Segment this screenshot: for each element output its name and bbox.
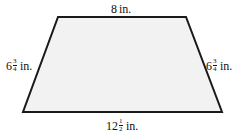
bottom-side-denominator: 2 (119, 126, 123, 133)
left-side-label: 6 3 4 in. (6, 58, 32, 73)
left-side-unit: in. (20, 60, 32, 72)
bottom-side-label: 12 1 2 in. (106, 118, 138, 133)
left-side-fraction: 3 4 (13, 58, 18, 73)
right-side-denominator: 4 (213, 66, 217, 73)
left-side-denominator: 4 (13, 66, 17, 73)
bottom-side-whole: 12 (106, 120, 118, 132)
left-side-whole: 6 (6, 60, 12, 72)
trapezoid-shape (23, 17, 222, 112)
right-side-label: 6 3 4 in. (206, 58, 232, 73)
bottom-side-unit: in. (126, 120, 138, 132)
right-side-fraction: 3 4 (213, 58, 218, 73)
top-side-length: 8 (111, 2, 117, 16)
top-side-label: 8in. (111, 3, 131, 15)
top-side-unit: in. (119, 2, 131, 16)
bottom-side-fraction: 1 2 (119, 118, 124, 133)
right-side-whole: 6 (206, 60, 212, 72)
right-side-unit: in. (220, 60, 232, 72)
